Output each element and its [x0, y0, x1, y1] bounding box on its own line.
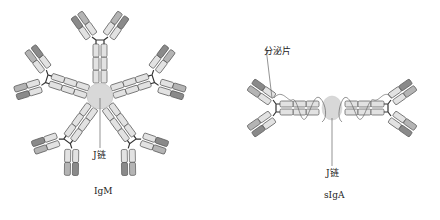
- siga-jchain-label: J链: [326, 166, 339, 179]
- antibody-diagram: [0, 0, 440, 220]
- siga-secretory-label: 分泌片: [264, 44, 291, 57]
- siga-caption: sIgA: [324, 190, 344, 200]
- igm-caption: IgM: [94, 186, 113, 196]
- siga-dimer: [247, 48, 417, 166]
- igm-jchain-label: J链: [93, 148, 106, 161]
